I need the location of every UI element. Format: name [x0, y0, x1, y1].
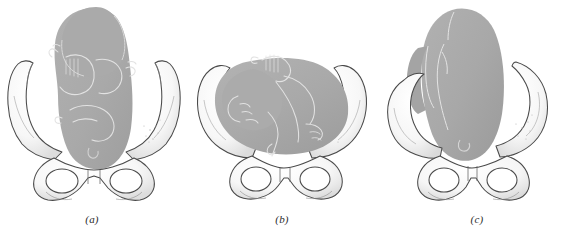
figure-root: (a) — [0, 0, 564, 234]
pelvic-ring — [418, 156, 530, 200]
obturator-foramen-left — [429, 168, 459, 192]
panel-b: (b) — [188, 0, 376, 234]
panel-c-illustration — [376, 0, 564, 210]
panel-a: (a) — [0, 0, 188, 234]
pelvic-ring — [230, 156, 343, 199]
fetal-body — [421, 9, 503, 161]
iliac-wing-right — [496, 62, 548, 157]
panel-a-illustration — [0, 0, 188, 210]
iliac-wing-left — [8, 61, 62, 160]
fetal-body-group — [55, 7, 133, 169]
panel-c-label: (c) — [383, 212, 564, 226]
panel-a-label: (a) — [0, 212, 186, 226]
panel-b-illustration — [188, 0, 376, 210]
obturator-foramen-left — [46, 169, 78, 193]
obturator-foramen-right — [300, 167, 330, 191]
panel-c: (c) — [376, 0, 564, 234]
iliac-wing-right — [126, 61, 180, 160]
panel-b-label: (b) — [188, 212, 376, 226]
obturator-foramen-left — [241, 167, 271, 191]
obturator-foramen-right — [110, 169, 142, 193]
obturator-foramen-right — [487, 168, 517, 192]
